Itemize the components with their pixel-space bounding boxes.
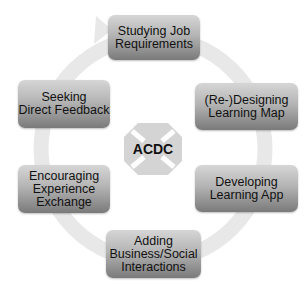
step-adding-business-social-interactions: Adding Business/Social Interactions xyxy=(106,230,201,278)
step-seeking-direct-feedback: Seeking Direct Feedback xyxy=(18,80,110,128)
center-label: ACDC xyxy=(118,117,188,181)
step-redesigning-learning-map: (Re-)Designing Learning Map xyxy=(195,83,298,130)
step-studying-job-requirements: Studying Job Requirements xyxy=(108,15,200,60)
step-developing-learning-app: Developing Learning App xyxy=(195,165,298,212)
step-encouraging-experience-exchange: Encouraging Experience Exchange xyxy=(18,165,110,213)
center-node: ACDC xyxy=(118,117,188,181)
